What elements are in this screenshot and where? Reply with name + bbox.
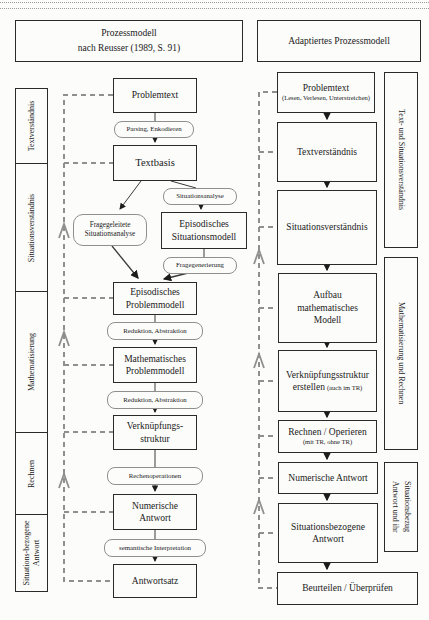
right-phase-text-und-situationsverstaendnis-label: Text- und Situationsverständnis [385, 73, 417, 247]
right-phase-text-und-situationsverstaendnis: Text- und Situationsverständnis [384, 72, 418, 248]
right-phase-antwort-und-situationsbezug: Antwort und ihr Situationsbezug [384, 462, 418, 552]
box-beurteilen-ueberpruefen: Beurteilen / Überprüfen [277, 572, 418, 605]
box-situationsbezogene-antwort-line1: Situationsbezogene [291, 521, 365, 533]
box-problemtext-reusser: Problemtext [113, 78, 197, 113]
process-fragegenerierung: Fragegenerierung [163, 257, 237, 274]
process-parsing-enkodieren: Parsing, Enkodieren [114, 121, 194, 138]
left-phase-textverstaendnis: Textverständnis [15, 88, 48, 164]
box-numerische-antwort-reusser: Numerische Antwort [113, 494, 197, 530]
box-numerische-antwort-adapted-label: Numerische Antwort [288, 472, 367, 484]
left-phase-textverstaendnis-label: Textverständnis [17, 91, 47, 161]
box-situationsbezogene-antwort-line2: Antwort [312, 533, 344, 545]
header-reusser-model: Prozessmodell nach Reusser (1989, S. 91) [15, 20, 243, 62]
box-verknuepfungsstruktur-erstellen: Verknüpfungsstruktur erstellen(auch im T… [278, 350, 377, 412]
box-problemtext-reusser-label: Problemtext [132, 89, 178, 101]
box-verknuepfung-erstellen-line2: erstellen(auch im TR) [293, 381, 363, 393]
box-mathematisches-problemmodell: Mathematisches Problemmodell [113, 347, 197, 383]
process-reduktion-abstraktion-2: Reduktion, Abstraktion [107, 391, 203, 409]
box-numerische-antwort-reusser-line2: Antwort [139, 512, 171, 524]
left-phase-situationsverstaendnis-label: Situationsverständnis [17, 166, 47, 289]
left-phase-rechnen: Rechnen [15, 432, 48, 515]
box-antwortsatz: Antwortsatz [113, 564, 197, 598]
process-semantische-interpretation: semantische Interpretation [104, 539, 206, 557]
process-semantische-interpretation-label: semantische Interpretation [119, 544, 191, 552]
box-verknuepfungsstruktur-line2: struktur [140, 433, 170, 445]
box-episodisches-problemmodell-line2: Problemmodell [126, 299, 185, 311]
box-verknuepfungsstruktur-line1: Verknüpfungs- [127, 420, 183, 432]
box-rechnen-operieren-subtitle: (mit TR, ohne TR) [303, 438, 352, 447]
box-aufbau-line3: Modell [314, 314, 341, 326]
header-reusser-line1: Prozessmodell [101, 26, 156, 41]
process-reduktion-abstraktion-2-label: Reduktion, Abstraktion [123, 396, 186, 404]
process-reduktion-abstraktion-1-label: Reduktion, Abstraktion [123, 327, 186, 335]
reusser-feedback-loop [64, 95, 113, 581]
box-textbasis-label: Textbasis [135, 156, 175, 170]
box-textverstaendnis-adapted: Textverständnis [277, 122, 377, 182]
box-mathematisches-problemmodell-line2: Problemmodell [126, 365, 185, 377]
box-textverstaendnis-adapted-label: Textverständnis [297, 146, 357, 158]
right-phase-antwort-und-situationsbezug-label: Antwort und ihr Situationsbezug [385, 463, 417, 551]
header-reusser-line2: nach Reusser (1989, S. 91) [78, 41, 180, 56]
box-beurteilen-ueberpruefen-label: Beurteilen / Überprüfen [302, 582, 393, 594]
process-rechenoperationen: Rechenoperationen [107, 467, 203, 485]
box-aufbau-line2: mathematisches [297, 302, 358, 314]
box-fragegeleitete-line1: Fragegeleitete [90, 221, 131, 230]
box-episodisches-problemmodell-line1: Episodisches [130, 286, 180, 298]
right-phase-mathematisierung-und-rechnen: Mathematisierung und Rechnen [384, 257, 418, 450]
box-verknuepfung-erstellen-line2-main: erstellen [293, 382, 325, 392]
process-situationsanalyse-label: Situationsanalyse [176, 192, 224, 200]
box-episodisches-situationsmodell: Episodisches Situationsmodell [161, 212, 247, 249]
box-situationsbezogene-antwort-adapted: Situationsbezogene Antwort [278, 503, 378, 563]
scanned-diagram-page: Prozessmodell nach Reusser (1989, S. 91)… [0, 0, 429, 620]
box-fragegeleitete-situationsanalyse: Fragegeleitete Situationsanalyse [73, 214, 147, 246]
box-verknuepfungsstruktur: Verknüpfungs- struktur [113, 415, 197, 450]
box-episodisches-problemmodell: Episodisches Problemmodell [113, 282, 197, 315]
box-numerische-antwort-adapted: Numerische Antwort [278, 462, 378, 494]
box-situationsverstaendnis-adapted: Situationsverständnis [277, 190, 377, 265]
right-phase-mathematisierung-und-rechnen-label: Mathematisierung und Rechnen [385, 258, 417, 449]
box-fragegeleitete-line2: Situationsanalyse [85, 230, 135, 239]
adapted-feedback-loop [259, 92, 277, 588]
left-phase-rechnen-label: Rechnen [17, 435, 47, 512]
left-phase-mathematisierung-label: Mathematisierung [17, 294, 47, 430]
process-reduktion-abstraktion-1: Reduktion, Abstraktion [107, 322, 203, 340]
box-problemtext-adapted-subtitle: (Lesen, Verlesen, Unterstreichen) [282, 94, 370, 103]
header-adapted-label: Adaptiertes Prozessmodell [288, 34, 390, 49]
box-situationsverstaendnis-adapted-label: Situationsverständnis [286, 221, 367, 233]
box-verknuepfung-erstellen-line1: Verknüpfungsstruktur [286, 369, 369, 381]
left-phase-mathematisierung: Mathematisierung [15, 291, 48, 433]
left-phase-situationsbezogene-antwort-label: Situations-bezogene Antwort [17, 518, 47, 588]
box-episodisches-situationsmodell-line1: Episodisches [179, 218, 229, 230]
box-verknuepfung-erstellen-line2-note: (auch im TR) [327, 384, 362, 391]
box-textbasis: Textbasis [113, 145, 197, 181]
left-phase-situationsbezogene-antwort: Situations-bezogene Antwort [15, 514, 48, 592]
box-antwortsatz-label: Antwortsatz [132, 575, 178, 587]
box-rechnen-operieren-title: Rechnen / Operieren [288, 426, 367, 438]
process-rechenoperationen-label: Rechenoperationen [129, 472, 181, 480]
header-adapted-model: Adaptiertes Prozessmodell [257, 20, 421, 62]
process-fragegenerierung-label: Fragegenerierung [176, 261, 224, 269]
box-problemtext-adapted-title: Problemtext [303, 82, 349, 94]
box-episodisches-situationsmodell-line2: Situationsmodell [172, 231, 236, 243]
box-problemtext-adapted: Problemtext (Lesen, Verlesen, Unterstrei… [277, 72, 375, 113]
box-mathematisches-problemmodell-line1: Mathematisches [124, 353, 186, 365]
box-aufbau-mathematisches-modell: Aufbau mathematisches Modell [278, 273, 377, 343]
box-numerische-antwort-reusser-line1: Numerische [132, 500, 178, 512]
process-situationsanalyse: Situationsanalyse [163, 188, 237, 205]
box-rechnen-operieren: Rechnen / Operieren (mit TR, ohne TR) [278, 420, 377, 453]
left-phase-situationsverstaendnis: Situationsverständnis [15, 163, 48, 292]
process-parsing-enkodieren-label: Parsing, Enkodieren [126, 125, 181, 133]
box-aufbau-line1: Aufbau [313, 289, 342, 301]
